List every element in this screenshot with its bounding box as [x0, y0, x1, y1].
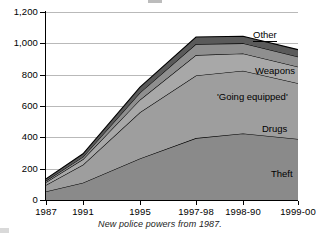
y-axis-label-600: 600 [22, 101, 38, 111]
series-label-weapons: Weapons [255, 66, 295, 76]
x-axis-label-1999-00: 1999-00 [280, 206, 316, 217]
x-tick-1987 [46, 201, 47, 205]
x-tick-1991 [83, 201, 84, 205]
x-tick-1999-00 [298, 201, 299, 205]
series-label-other: Other [253, 30, 277, 42]
series-label-drugs: Drugs [262, 124, 287, 134]
series-label--going-equipped-: 'Going equipped' [217, 92, 288, 102]
x-tick-1997-98 [196, 201, 197, 205]
stacked-area-chart: 02004006008001,0001,200 1987199119951997… [0, 0, 320, 236]
x-axis-label-1991: 1991 [72, 206, 94, 217]
y-axis-line [45, 11, 46, 201]
x-tick-1998-90 [243, 201, 244, 205]
y-axis-label-0: 0 [33, 195, 38, 205]
x-axis-label-1997-98: 1997-98 [178, 206, 214, 217]
x-tick-1995 [140, 201, 141, 205]
chart-caption: New police powers from 1987. [0, 219, 320, 229]
x-axis-label-1987: 1987 [35, 206, 57, 217]
y-axis-label-1200: 1,200 [14, 7, 38, 17]
y-axis-label-800: 800 [22, 70, 38, 80]
cropped-title-sliver [148, 0, 162, 3]
x-axis-label-1995: 1995 [129, 206, 151, 217]
y-axis-label-400: 400 [22, 133, 38, 143]
y-axis-label-200: 200 [22, 164, 38, 174]
series-label-theft: Theft [271, 169, 293, 179]
y-axis-label-1000: 1,000 [14, 39, 38, 49]
x-axis-label-1998-90: 1998-90 [225, 206, 261, 217]
